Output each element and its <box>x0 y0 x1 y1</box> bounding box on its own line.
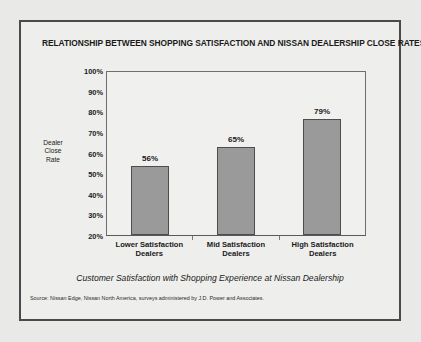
chart-card: RELATIONSHIP BETWEEN SHOPPING SATISFACTI… <box>19 20 401 321</box>
x-category-line: High Satisfaction <box>280 240 366 249</box>
bar-high-satisfaction[interactable]: 79% <box>303 119 341 235</box>
y-tick-label: 40% <box>88 190 103 199</box>
chart-caption: Customer Satisfaction with Shopping Expe… <box>21 273 399 283</box>
x-category-lower-satisfaction: Lower Satisfaction Dealers <box>106 240 192 259</box>
y-tick-label: 90% <box>88 87 103 96</box>
y-axis: 100% 90% 80% 70% 60% 50% 40% 30% 20% <box>69 66 103 241</box>
x-category-line: Dealers <box>106 249 192 258</box>
y-tick-label: 60% <box>88 149 103 158</box>
y-tick-label: 50% <box>88 170 103 179</box>
y-tick-label: 80% <box>88 108 103 117</box>
bar-value-label: 79% <box>314 107 330 116</box>
bar-slot: 56% <box>107 72 192 235</box>
bar-mid-satisfaction[interactable]: 65% <box>217 147 255 235</box>
bar-value-label: 56% <box>142 154 158 163</box>
y-axis-title-line: Dealer <box>36 139 70 147</box>
y-tick-label: 100% <box>84 67 103 76</box>
y-axis-title-line: Close <box>36 147 70 155</box>
y-tick-label: 20% <box>88 232 103 241</box>
plot-area: 56% 65% 79% <box>106 71 366 236</box>
screenshot-root: RELATIONSHIP BETWEEN SHOPPING SATISFACTI… <box>0 0 421 342</box>
bar-slot: 65% <box>193 72 278 235</box>
bar-value-label: 65% <box>228 135 244 144</box>
y-axis-title-line: Rate <box>36 156 70 164</box>
x-category-line: Dealers <box>193 249 279 258</box>
x-axis: Lower Satisfaction Dealers Mid Satisfact… <box>106 240 366 259</box>
x-category-line: Dealers <box>280 249 366 258</box>
bar-slot: 79% <box>279 72 364 235</box>
y-tick-label: 70% <box>88 128 103 137</box>
x-category-line: Lower Satisfaction <box>106 240 192 249</box>
x-category-line: Mid Satisfaction <box>193 240 279 249</box>
bar-lower-satisfaction[interactable]: 56% <box>131 166 169 235</box>
y-axis-title: Dealer Close Rate <box>36 139 70 164</box>
source-note: Source: Nissan Edge, Nissan North Americ… <box>30 295 264 301</box>
x-category-high-satisfaction: High Satisfaction Dealers <box>280 240 366 259</box>
y-tick-label: 30% <box>88 211 103 220</box>
x-category-mid-satisfaction: Mid Satisfaction Dealers <box>193 240 279 259</box>
bar-series: 56% 65% 79% <box>107 72 365 235</box>
chart-title: RELATIONSHIP BETWEEN SHOPPING SATISFACTI… <box>42 38 386 48</box>
